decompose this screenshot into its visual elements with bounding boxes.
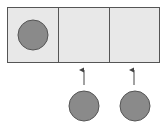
cell-2 bbox=[110, 8, 160, 63]
ball-in-cell-0 bbox=[18, 20, 48, 50]
incoming-ball-2 bbox=[120, 91, 150, 121]
diagram-canvas bbox=[0, 0, 167, 128]
cell-1 bbox=[59, 8, 110, 63]
incoming-ball-1 bbox=[69, 91, 99, 121]
